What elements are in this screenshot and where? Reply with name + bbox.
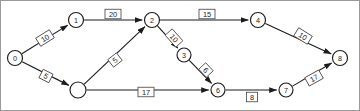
- graph-node-3[interactable]: 3: [177, 48, 191, 62]
- node-label-text: 2: [150, 16, 154, 25]
- edge-weight-label-2-3: 10: [165, 29, 183, 47]
- node-label-text: 4: [256, 16, 260, 25]
- node-label-text: 8: [338, 54, 342, 63]
- node-label-text: 0: [13, 54, 17, 63]
- node-label-text: 3: [182, 51, 186, 60]
- edge-weight-label-3-6: 6: [199, 63, 213, 78]
- edge-weight-label-4-8: 10: [294, 28, 313, 45]
- node-circle: [70, 82, 86, 98]
- graph-node-4[interactable]: 4: [251, 13, 266, 28]
- edge-weight-label-1-2: 20: [105, 9, 121, 19]
- graph-node-6[interactable]: 6: [211, 83, 225, 97]
- node-label-text: 7: [284, 86, 288, 95]
- edge-weight-text: 8: [250, 93, 254, 102]
- graph-node-2[interactable]: 2: [145, 13, 160, 28]
- edge-weight-label-6-7: 8: [247, 92, 258, 102]
- edge-weight-label-7-8: 17: [305, 70, 324, 86]
- graph-node-1[interactable]: 1: [69, 13, 84, 28]
- graph-node-7[interactable]: 7: [279, 83, 293, 97]
- edge-weight-text: 20: [109, 10, 117, 19]
- graph-node-unlabeled[interactable]: [70, 82, 86, 98]
- edge-weight-text: 15: [203, 10, 211, 19]
- graph-canvas-svg: 105205171015610817 01234678: [0, 0, 360, 111]
- graph-diagram: 105205171015610817 01234678: [0, 0, 360, 111]
- edge-weight-text: 17: [142, 88, 150, 97]
- graph-node-0[interactable]: 0: [8, 51, 23, 66]
- nodes-layer: 01234678: [8, 13, 348, 99]
- edge-weight-label-5-2: 5: [108, 53, 123, 67]
- graph-node-8[interactable]: 8: [333, 51, 348, 66]
- node-label-text: 6: [216, 86, 220, 95]
- node-label-text: 1: [74, 16, 78, 25]
- edge-weight-label-5-6: 17: [138, 87, 154, 97]
- edge-weight-label-2-4: 15: [199, 9, 215, 19]
